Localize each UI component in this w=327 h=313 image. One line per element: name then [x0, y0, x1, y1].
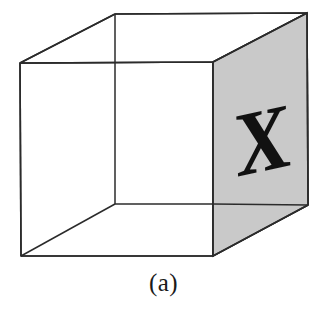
top-back-edge	[115, 13, 307, 14]
figure-panel: X (a)	[0, 0, 327, 313]
front-left-vertical-edge	[20, 63, 21, 256]
hidden-bottom-right-edge-shaded	[213, 204, 308, 205]
front-left-face	[20, 62, 213, 256]
cube-illustration: X	[0, 0, 327, 313]
front-top-edge	[20, 62, 213, 63]
figure-caption: (a)	[0, 268, 327, 298]
right-back-vertical-edge	[307, 13, 308, 205]
